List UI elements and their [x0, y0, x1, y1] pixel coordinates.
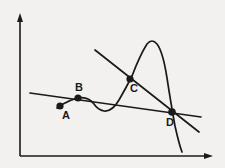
vertical-axis-arrowhead	[17, 13, 23, 22]
point-label-a: A	[62, 109, 70, 121]
curve-diagram-svg: A B C D	[0, 0, 225, 168]
point-label-d: D	[166, 116, 174, 128]
lines-group	[30, 50, 201, 132]
secant-line-c-d	[95, 50, 199, 132]
horizontal-axis-arrowhead	[204, 153, 213, 159]
point-label-c: C	[130, 82, 138, 94]
diagram-canvas: A B C D	[0, 0, 225, 168]
point-label-b: B	[75, 81, 83, 93]
point-d-marker[interactable]	[168, 108, 176, 116]
axes-group	[17, 13, 213, 159]
point-b-marker[interactable]	[74, 94, 81, 101]
